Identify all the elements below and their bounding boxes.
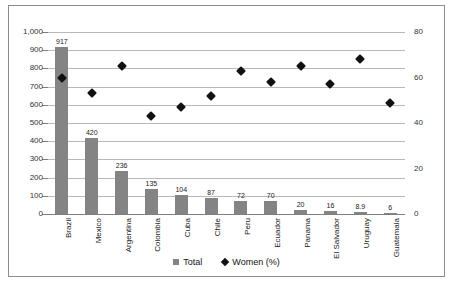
diamond-marker (355, 54, 365, 64)
bar (145, 189, 158, 214)
gridline (47, 123, 405, 124)
diamond-marker (87, 88, 97, 98)
category-label: Argentina (125, 218, 133, 252)
legend-item-women: Women (%) (222, 257, 279, 267)
left-axis-tick-label: 800 (9, 64, 43, 72)
bar-value-label: 16 (314, 202, 346, 209)
bar-value-label: 87 (195, 189, 227, 196)
right-axis-tick-label: 40 (414, 119, 423, 127)
diamond-marker-icon (221, 258, 229, 266)
category-label: Panama (304, 218, 312, 248)
diamond-marker (117, 61, 127, 71)
category-label: El Salvador (333, 218, 341, 259)
category-label: Brazil (65, 218, 73, 238)
left-axis-tick-label: 1,000 (9, 28, 43, 36)
category-label: Mexico (95, 218, 103, 243)
chart-legend: Total Women (%) (9, 257, 444, 267)
diamond-marker (206, 91, 216, 101)
bar-value-label: 135 (135, 180, 167, 187)
right-axis-tick-label: 60 (414, 74, 423, 82)
bar-value-label: 70 (255, 192, 287, 199)
diamond-marker (146, 111, 156, 121)
right-axis-tick-label: 0 (414, 210, 418, 218)
category-label: Chile (214, 218, 222, 236)
category-label: Guatemala (393, 218, 401, 257)
gridline (47, 50, 405, 51)
left-axis-tick-label: 500 (9, 119, 43, 127)
category-label: Cuba (184, 218, 192, 237)
gridline (47, 159, 405, 160)
legend-label-total: Total (183, 257, 202, 267)
right-axis-tick-label: 20 (414, 165, 423, 173)
bar-value-label: 917 (46, 38, 78, 45)
gridline (47, 141, 405, 142)
category-label: Uruguay (363, 218, 371, 248)
left-axis-tick-label: 0 (9, 210, 43, 218)
diamond-marker (296, 61, 306, 71)
category-label: Peru (244, 218, 252, 235)
left-axis-tick-label: 300 (9, 155, 43, 163)
bar-value-label: 72 (225, 192, 257, 199)
left-axis-tick-label: 400 (9, 137, 43, 145)
diamond-marker (385, 98, 395, 108)
left-axis-tick-label: 600 (9, 101, 43, 109)
plot-area: 01002003004005006007008009001,0000204060… (47, 32, 405, 214)
left-axis-tick-label: 200 (9, 174, 43, 182)
legend-label-women: Women (%) (232, 257, 279, 267)
diamond-marker (176, 102, 186, 112)
gridline (47, 68, 405, 69)
bar-value-label: 236 (106, 162, 138, 169)
left-axis-tick-label: 700 (9, 83, 43, 91)
gridline (47, 32, 405, 33)
right-axis-tick-label: 80 (414, 28, 423, 36)
bar (234, 201, 247, 214)
bar-value-label: 104 (165, 186, 197, 193)
chart-figure: 01002003004005006007008009001,0000204060… (8, 5, 445, 277)
legend-item-total: Total (173, 257, 202, 267)
bar (175, 195, 188, 214)
square-marker-icon (173, 259, 179, 265)
bar (115, 171, 128, 214)
left-axis-tick-label: 100 (9, 192, 43, 200)
bar-value-label: 6 (374, 204, 406, 211)
bar-value-label: 20 (285, 201, 317, 208)
bar-value-label: 420 (76, 129, 108, 136)
bar (205, 198, 218, 214)
gridline (47, 87, 405, 88)
bar (85, 138, 98, 214)
bar (324, 211, 337, 214)
diamond-marker (325, 79, 335, 89)
left-axis-tick-label: 900 (9, 46, 43, 54)
gridline (47, 105, 405, 106)
bar (294, 210, 307, 214)
category-label: Ecuador (274, 218, 282, 248)
category-label: Colombia (154, 218, 162, 252)
gridline (47, 178, 405, 179)
bar-value-label: 8.9 (344, 203, 376, 210)
gridline (47, 214, 405, 215)
diamond-marker (236, 66, 246, 76)
diamond-marker (266, 77, 276, 87)
bar (384, 213, 397, 214)
bar (354, 212, 367, 214)
bar (264, 201, 277, 214)
